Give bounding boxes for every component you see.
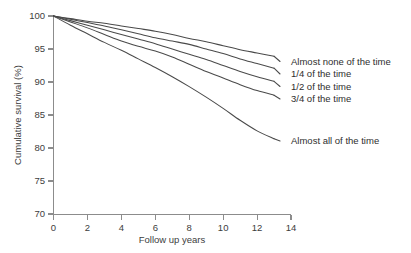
x-tick-label: 4 xyxy=(119,222,124,233)
y-tick-label: 70 xyxy=(34,208,45,219)
x-tick-label: 6 xyxy=(153,222,158,233)
y-tick-label: 85 xyxy=(34,109,45,120)
x-tick-label: 8 xyxy=(187,222,192,233)
x-tick-label: 12 xyxy=(252,222,263,233)
series-inline-labels: Almost none of the time1/4 of the time1/… xyxy=(291,56,391,146)
series-label: 1/2 of the time xyxy=(291,81,351,92)
x-tick-label: 14 xyxy=(286,222,297,233)
series-label-connector xyxy=(274,68,280,74)
series-lines xyxy=(54,16,281,141)
y-axis-ticks: 707580859095100 xyxy=(29,10,53,219)
series-label-connector xyxy=(274,56,280,61)
series-label: Almost none of the time xyxy=(291,56,391,67)
series-line xyxy=(54,16,275,139)
y-tick-label: 80 xyxy=(34,142,45,153)
x-tick-label: 2 xyxy=(85,222,90,233)
x-tick-label: 0 xyxy=(51,222,56,233)
series-label: Almost all of the time xyxy=(291,135,379,146)
series-line xyxy=(54,16,275,95)
x-axis-ticks: 02468101214 xyxy=(51,215,296,234)
y-axis-title: Cumulative survival (%) xyxy=(12,65,23,165)
x-axis-title: Follow up years xyxy=(139,234,206,245)
series-label-connector xyxy=(274,139,280,141)
survival-chart: 707580859095100 02468101214 Almost none … xyxy=(0,0,411,253)
y-tick-label: 90 xyxy=(34,76,45,87)
series-label: 3/4 of the time xyxy=(291,93,351,104)
series-label-connector xyxy=(274,81,280,86)
y-tick-label: 100 xyxy=(29,10,45,21)
series-label-connector xyxy=(274,95,280,99)
x-tick-label: 10 xyxy=(218,222,229,233)
y-tick-label: 75 xyxy=(34,175,45,186)
series-label: 1/4 of the time xyxy=(291,68,351,79)
y-tick-label: 95 xyxy=(34,43,45,54)
series-line xyxy=(54,16,275,68)
chart-canvas: 707580859095100 02468101214 Almost none … xyxy=(0,0,411,253)
